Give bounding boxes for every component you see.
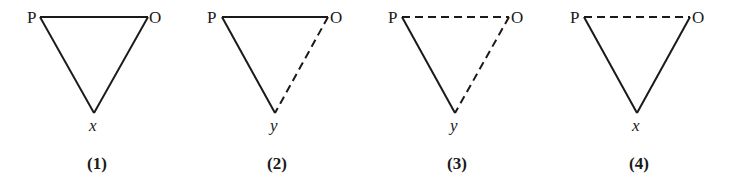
vertex-label-p: P [207,9,216,26]
figure-caption: (3) [447,155,467,172]
edge-p-bottom-fig-4 [584,17,637,113]
edge-o-bottom-fig-3 [455,17,509,113]
figure-caption: (2) [267,155,287,172]
vertex-label-o: O [330,9,342,26]
vertex-label-bottom: x [89,117,97,134]
edge-o-bottom-fig-1 [94,17,148,113]
diagram-canvas: P O x (1) P O y (2) P O y (3) P O x (4) [0,0,734,189]
vertex-label-p: P [27,9,36,26]
vertex-label-o: O [149,9,161,26]
edge-o-bottom-fig-2 [275,17,328,113]
figure-caption: (1) [87,155,107,172]
vertex-label-p: P [570,9,579,26]
vertex-label-p: P [388,9,397,26]
vertex-label-bottom: y [450,117,458,134]
edge-p-bottom-fig-3 [402,17,455,113]
edge-o-bottom-fig-4 [637,17,690,113]
triangle-edges [0,0,734,189]
vertex-label-o: O [511,9,523,26]
vertex-label-bottom: y [270,117,278,134]
vertex-label-bottom: x [632,117,640,134]
figure-caption: (4) [629,155,649,172]
edge-p-bottom-fig-1 [40,17,94,113]
edge-p-bottom-fig-2 [222,17,275,113]
vertex-label-o: O [692,9,704,26]
